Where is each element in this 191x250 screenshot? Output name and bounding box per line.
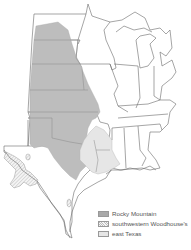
legend: Rocky Mountain southwestern Woodhouse's …	[98, 209, 190, 239]
legend-item-southwestern-woodhouses: southwestern Woodhouse's	[98, 219, 190, 228]
legend-label: southwestern Woodhouse's	[112, 220, 188, 227]
legend-item-east-texas: east Texas	[98, 229, 190, 238]
legend-label: east Texas	[112, 230, 141, 237]
swatch-southwestern-woodhouses	[98, 221, 109, 227]
swatch-east-texas	[98, 231, 109, 237]
legend-label: Rocky Mountain	[112, 210, 156, 217]
range-southwestern-woodhouses-coastal	[67, 199, 71, 207]
swatch-rocky-mountain	[98, 211, 109, 217]
legend-item-rocky-mountain: Rocky Mountain	[98, 209, 190, 218]
range-southwestern-woodhouses-isolated	[26, 154, 30, 160]
